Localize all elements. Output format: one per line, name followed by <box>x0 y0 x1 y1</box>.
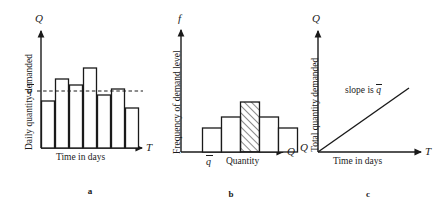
panel-c-slope-symbol: q <box>376 84 381 95</box>
panel-a-mean-symbol: q <box>27 84 32 96</box>
panel-b-x-axis-symbol: Q <box>287 145 295 157</box>
panel-c-x-axis-symbol: T <box>425 145 431 157</box>
panel-a-y-axis-label: Daily quantity demanded <box>24 54 34 150</box>
panel-b-mean-label: q <box>206 155 211 167</box>
panel-b-mean-symbol: q <box>206 155 211 167</box>
economics-demand-figure: Q T Daily quantity demanded Time in days… <box>0 0 447 210</box>
bar <box>222 117 241 152</box>
panel-a-letter: a <box>80 186 100 196</box>
panel-b-letter: b <box>221 189 241 199</box>
panel-a-x-axis-symbol: T <box>146 141 152 153</box>
bar <box>126 108 139 148</box>
bar <box>112 89 125 148</box>
bar <box>70 85 83 148</box>
bar <box>241 102 260 152</box>
bar <box>98 95 111 148</box>
panel-b-bars <box>203 102 298 152</box>
panel-a-mean-label: q <box>27 84 32 96</box>
panel-c-y-axis-label: Total quantity demanded <box>310 58 320 152</box>
panel-c-slope-annotation: slope is q <box>345 84 381 95</box>
panel-b-y-axis-label: Frequency of demand level <box>172 50 182 154</box>
panel-b-y-axis-symbol: f <box>178 12 181 24</box>
bar <box>203 128 222 152</box>
panel-c-letter: c <box>358 189 378 199</box>
figure-canvas <box>0 0 447 210</box>
panel-b-x-axis-label: Quantity <box>226 156 259 166</box>
bar <box>42 101 55 148</box>
bar <box>84 68 97 148</box>
panel-a-x-axis-label: Time in days <box>56 152 105 162</box>
panel-c-slope-text: slope is <box>345 85 376 95</box>
panel-b <box>181 30 298 152</box>
panel-c-trend-line <box>318 88 409 152</box>
panel-a <box>37 31 143 148</box>
panel-a-y-axis-symbol: Q <box>35 12 43 24</box>
panel-c-x-axis-label: Time in days <box>333 156 382 166</box>
panel-c-y-axis-symbol: Q <box>312 12 320 24</box>
bar <box>260 117 279 152</box>
panel-a-bars <box>42 68 139 148</box>
bar <box>56 79 69 148</box>
panel-c-origin-symbol: Q <box>300 141 308 153</box>
